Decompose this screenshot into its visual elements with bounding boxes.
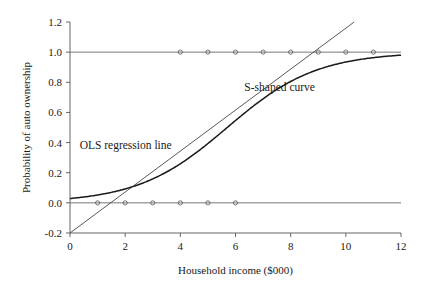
y-tick-label: 0.4: [48, 137, 62, 149]
x-axis-tick-labels: 024681012: [67, 240, 406, 252]
reference-lines-group: [70, 52, 401, 203]
chart-canvas: -0.20.00.20.40.60.81.01.2 024681012 OLS …: [0, 0, 428, 284]
x-tick-label: 12: [396, 240, 407, 252]
x-tick-label: 10: [340, 240, 352, 252]
x-axis-ticks: [70, 233, 401, 237]
y-axis-ticks: [66, 22, 70, 233]
x-tick-label: 2: [122, 240, 128, 252]
annotation-s-shaped-curve: S-shaped curve: [244, 81, 315, 94]
x-axis-title: Household income ($000): [178, 264, 293, 277]
ols-regression-line: [70, 22, 354, 233]
x-tick-label: 0: [67, 240, 73, 252]
y-axis-title: Probability of auto ownership: [20, 61, 32, 193]
y-tick-label: 1.2: [48, 16, 62, 28]
y-tick-label: 0.6: [48, 106, 62, 118]
annotation-ols-regression-line: OLS regression line: [80, 139, 172, 152]
y-axis-tick-labels: -0.20.00.20.40.60.81.01.2: [45, 16, 63, 239]
y-tick-label: 0.8: [48, 76, 62, 88]
x-tick-label: 6: [233, 240, 239, 252]
chart-figure: -0.20.00.20.40.60.81.01.2 024681012 OLS …: [0, 0, 428, 284]
y-tick-label: 0.2: [48, 167, 62, 179]
y-tick-label: 0.0: [48, 197, 62, 209]
x-tick-label: 8: [288, 240, 294, 252]
s-shaped-curve: [70, 55, 401, 198]
y-tick-label: -0.2: [45, 227, 62, 239]
x-tick-label: 4: [178, 240, 184, 252]
y-tick-label: 1.0: [48, 46, 62, 58]
axes-group: [66, 22, 401, 237]
